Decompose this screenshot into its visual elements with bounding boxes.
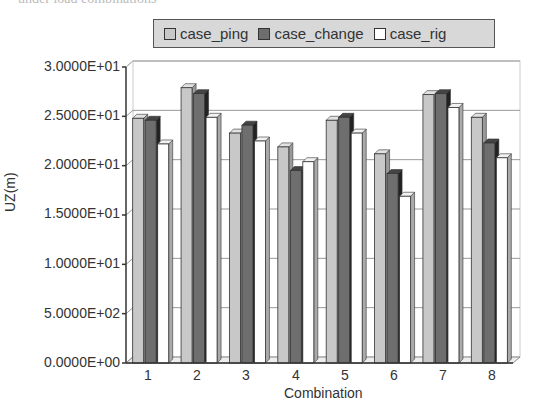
x-axis-title: Combination bbox=[284, 385, 363, 401]
bar-chart-plot bbox=[0, 0, 548, 414]
x-tick-label: 7 bbox=[433, 367, 453, 383]
x-tick-label: 5 bbox=[335, 367, 355, 383]
x-tick-label: 2 bbox=[187, 367, 207, 383]
x-tick-label: 4 bbox=[286, 367, 306, 383]
x-tick-label: 6 bbox=[384, 367, 404, 383]
x-tick-label: 8 bbox=[482, 367, 502, 383]
x-tick-label: 1 bbox=[138, 367, 158, 383]
x-tick-label: 3 bbox=[236, 367, 256, 383]
